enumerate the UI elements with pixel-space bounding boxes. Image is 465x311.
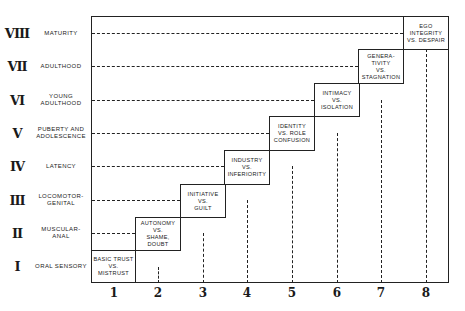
stage-box-2: AUTONOMY VS. SHAME, DOUBT bbox=[135, 217, 181, 251]
stage-box-5: IDENTITY VS. ROLE CONFUSION bbox=[269, 116, 315, 151]
row-label-iv: IV LATENCY bbox=[0, 151, 90, 181]
drop-line-7 bbox=[381, 100, 382, 283]
roman-numeral: II bbox=[0, 226, 34, 241]
column-number-8: 8 bbox=[404, 286, 448, 300]
leader-line-iv bbox=[92, 166, 224, 167]
column-number-5: 5 bbox=[270, 286, 314, 300]
row-label-vii: VII ADULTHOOD bbox=[0, 51, 90, 81]
roman-numeral: VII bbox=[0, 59, 34, 74]
row-label-vi: VI YOUNG ADULTHOOD bbox=[0, 85, 90, 115]
stage-box-3: INITIATIVE VS. GUILT bbox=[180, 184, 226, 218]
drop-line-6 bbox=[337, 133, 338, 283]
column-number-3: 3 bbox=[181, 286, 225, 300]
drop-line-4 bbox=[247, 200, 248, 283]
drop-line-5 bbox=[292, 166, 293, 283]
stage-name: PUBERTY AND ADOLESCENCE bbox=[34, 126, 88, 140]
stage-box-4: INDUSTRY VS. INFERIORITY bbox=[224, 150, 270, 185]
stage-name: YOUNG ADULTHOOD bbox=[34, 93, 88, 107]
stage-name: MATURITY bbox=[34, 30, 88, 37]
stage-name: LATENCY bbox=[34, 163, 88, 170]
stage-name: ORAL SENSORY bbox=[34, 263, 88, 270]
erikson-stages-diagram: VIII MATURITY VII ADULTHOOD VI YOUNG ADU… bbox=[0, 0, 465, 311]
drop-line-3 bbox=[203, 233, 204, 283]
row-label-i: I ORAL SENSORY bbox=[0, 251, 90, 281]
stage-name: MUSCULAR- ANAL bbox=[34, 226, 88, 240]
row-label-ii: II MUSCULAR- ANAL bbox=[0, 218, 90, 248]
row-label-iii: III LOCOMOTOR- GENITAL bbox=[0, 185, 90, 215]
stage-box-8: EGO INTEGRITY VS. DESPAIR bbox=[403, 16, 449, 50]
roman-numeral: VI bbox=[0, 93, 34, 108]
roman-numeral: V bbox=[0, 126, 34, 141]
column-number-6: 6 bbox=[315, 286, 359, 300]
roman-numeral: I bbox=[0, 259, 34, 274]
row-label-v: V PUBERTY AND ADOLESCENCE bbox=[0, 118, 90, 148]
stage-box-6: INTIMACY VS. ISOLATION bbox=[314, 83, 360, 117]
leader-line-vii bbox=[92, 66, 358, 67]
stage-name: LOCOMOTOR- GENITAL bbox=[34, 193, 88, 207]
column-number-2: 2 bbox=[136, 286, 180, 300]
leader-line-ii bbox=[92, 233, 135, 234]
leader-line-viii bbox=[92, 33, 403, 34]
drop-line-2 bbox=[158, 267, 159, 283]
row-label-viii: VIII MATURITY bbox=[0, 18, 90, 48]
column-number-1: 1 bbox=[92, 286, 136, 300]
stage-box-1: BASIC TRUST VS. MISTRUST bbox=[91, 250, 136, 283]
roman-numeral: VIII bbox=[0, 26, 34, 41]
leader-line-vi bbox=[92, 100, 314, 101]
drop-line-8 bbox=[426, 49, 427, 283]
stage-name: ADULTHOOD bbox=[34, 63, 88, 70]
leader-line-iii bbox=[92, 200, 180, 201]
column-number-4: 4 bbox=[225, 286, 269, 300]
stage-box-7: GENERA- TIVITY VS. STAGNATION bbox=[358, 49, 404, 84]
leader-line-v bbox=[92, 133, 269, 134]
column-number-7: 7 bbox=[359, 286, 403, 300]
roman-numeral: III bbox=[0, 193, 34, 208]
roman-numeral: IV bbox=[0, 159, 34, 174]
